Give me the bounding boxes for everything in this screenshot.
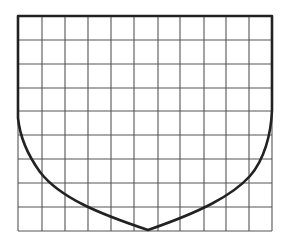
shield-grid-diagram (0, 0, 287, 247)
shield-outline (18, 16, 272, 230)
grid (18, 16, 272, 231)
